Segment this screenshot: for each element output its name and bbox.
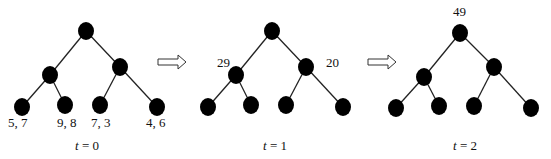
tree-edges — [22, 31, 157, 107]
leaf-label-3: 4, 6 — [146, 115, 166, 130]
time-label-t1: t = 1 — [263, 138, 287, 153]
node-mid-right — [298, 58, 314, 76]
node-root — [452, 24, 468, 42]
node-mid-left — [42, 66, 58, 84]
node-leaf-0 — [200, 98, 216, 116]
leaf-label-2: 7, 3 — [91, 115, 111, 130]
time-label-t0: t = 0 — [75, 138, 99, 153]
node-leaf-1 — [431, 97, 447, 115]
node-leaf-2 — [466, 97, 482, 115]
tree-sequence-diagram: 5, 7 9, 8 7, 3 4, 6 t = 0 29 20 t = — [0, 0, 551, 159]
node-leaf-2 — [278, 96, 294, 114]
node-mid-right — [486, 58, 502, 76]
node-leaf-3 — [523, 99, 539, 117]
tree-nodes — [14, 22, 165, 116]
node-leaf-0 — [14, 98, 30, 116]
tree-panel-t0: 5, 7 9, 8 7, 3 4, 6 t = 0 — [8, 22, 166, 153]
node-mid-left — [416, 68, 432, 86]
node-root — [264, 22, 280, 40]
node-leaf-1 — [57, 96, 73, 114]
node-leaf-2 — [92, 96, 108, 114]
time-label-t2: t = 2 — [453, 138, 477, 153]
arrow-right-icon — [368, 55, 396, 69]
node-mid-right — [112, 58, 128, 76]
tree-panel-t2: 49 t = 2 — [388, 4, 539, 153]
tree-panel-t1: 29 20 t = 1 — [200, 22, 351, 153]
root-label: 49 — [453, 4, 466, 19]
leaf-label-1: 9, 8 — [57, 115, 77, 130]
node-mid-left — [228, 66, 244, 84]
node-leaf-3 — [149, 98, 165, 116]
mid-right-label: 20 — [326, 55, 339, 70]
tree-edges — [396, 33, 531, 108]
mid-left-label: 29 — [217, 55, 230, 70]
node-root — [78, 22, 94, 40]
arrow-right-icon — [158, 55, 186, 69]
tree-nodes — [388, 24, 539, 117]
leaf-label-0: 5, 7 — [8, 115, 28, 130]
node-leaf-0 — [388, 99, 404, 117]
node-leaf-1 — [243, 96, 259, 114]
node-leaf-3 — [335, 98, 351, 116]
